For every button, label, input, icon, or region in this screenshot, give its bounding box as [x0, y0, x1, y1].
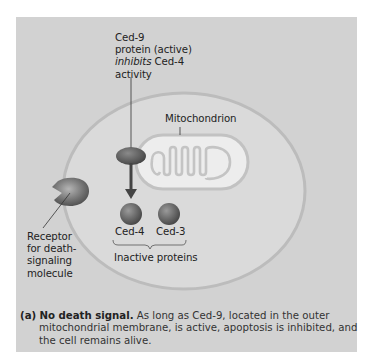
figure-caption: (a) No death signal. As long as Ced-9, l… — [20, 310, 350, 347]
receptor-label-line: molecule — [27, 268, 76, 280]
ced9-label-line: inhibits Ced-4 — [115, 56, 192, 68]
mitochondrion-icon — [136, 135, 248, 189]
receptor-label: Receptor for death- signaling molecule — [27, 231, 76, 280]
ced9-label-line: Ced-9 — [115, 32, 192, 44]
ced9-protein-icon — [116, 147, 146, 165]
ced9-label-line: protein (active) — [115, 44, 192, 56]
inhibits-text: inhibits — [115, 56, 151, 67]
caption-tag: (a) — [20, 310, 36, 321]
caption-line-1: (a) No death signal. As long as Ced-9, l… — [20, 310, 350, 322]
caption-line-2: mitochondrial membrane, is active, apopt… — [20, 322, 350, 334]
receptor-label-line: for death- — [27, 243, 76, 255]
inactive-proteins-label: Inactive proteins — [114, 252, 198, 264]
receptor-label-line: signaling — [27, 255, 76, 267]
ced3-label: Ced-3 — [156, 226, 186, 238]
ced4-protein-icon — [120, 203, 142, 225]
ced3-protein-icon — [158, 203, 180, 225]
ced9-label-line: activity — [115, 69, 192, 81]
mitochondrion-label: Mitochondrion — [165, 113, 236, 125]
caption-line-3: the cell remains alive. — [20, 335, 350, 347]
receptor-label-line: Receptor — [27, 231, 76, 243]
ced9-label: Ced-9 protein (active) inhibits Ced-4 ac… — [115, 32, 192, 81]
receptor-icon — [52, 178, 89, 206]
ced4-label: Ced-4 — [115, 226, 145, 238]
caption-text: As long as Ced-9, located in the outer — [134, 310, 330, 321]
caption-lead: No death signal. — [39, 310, 133, 321]
ced9-label-rest: Ced-4 — [151, 56, 184, 67]
